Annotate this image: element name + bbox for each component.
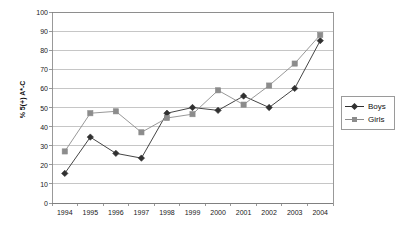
- legend-label-girls: Girls: [364, 115, 384, 124]
- data-point-boys-2000: [215, 107, 221, 113]
- data-point-girls-2000: [215, 88, 220, 93]
- legend-key-girls: [345, 114, 364, 125]
- data-point-girls-1994: [62, 149, 67, 154]
- chart-legend: Boys Girls: [341, 96, 395, 130]
- x-tick-label: 1994: [57, 209, 73, 216]
- x-tick-label: 2003: [287, 209, 303, 216]
- x-tick-label: 1997: [134, 209, 150, 216]
- x-tick-label: 2000: [210, 209, 226, 216]
- data-point-boys-2003: [291, 85, 297, 91]
- x-tick-label: 1996: [108, 209, 124, 216]
- line-chart: % 5(+) A*-C 0102030405060708090100 19941…: [0, 0, 400, 234]
- x-tick-label: 2002: [261, 209, 277, 216]
- data-point-boys-1995: [87, 134, 93, 140]
- data-point-boys-2001: [240, 93, 246, 99]
- data-point-girls-1997: [139, 130, 144, 135]
- legend-key-boys: [345, 101, 364, 112]
- series-line-girls: [65, 35, 320, 152]
- x-tick-label: 2001: [236, 209, 252, 216]
- data-point-girls-2002: [267, 83, 272, 88]
- data-point-boys-1999: [189, 104, 195, 110]
- x-tick-label: 1998: [159, 209, 175, 216]
- data-point-girls-2003: [292, 61, 297, 66]
- data-point-boys-1996: [113, 150, 119, 156]
- data-point-boys-1997: [138, 155, 144, 161]
- data-point-girls-1998: [164, 115, 169, 120]
- data-point-boys-2004: [317, 37, 323, 43]
- legend-item-girls: Girls: [342, 113, 394, 126]
- data-point-girls-2001: [241, 102, 246, 107]
- legend-label-boys: Boys: [364, 102, 386, 111]
- plot-area: [0, 0, 400, 234]
- data-point-girls-2004: [318, 32, 323, 37]
- legend-item-boys: Boys: [342, 100, 394, 113]
- data-point-boys-1994: [62, 170, 68, 176]
- x-tick-label: 2004: [312, 209, 328, 216]
- x-tick-label: 1999: [185, 209, 201, 216]
- data-point-boys-2002: [266, 104, 272, 110]
- data-point-girls-1999: [190, 112, 195, 117]
- data-point-girls-1995: [88, 111, 93, 116]
- data-point-girls-1996: [113, 109, 118, 114]
- x-tick-label: 1995: [83, 209, 99, 216]
